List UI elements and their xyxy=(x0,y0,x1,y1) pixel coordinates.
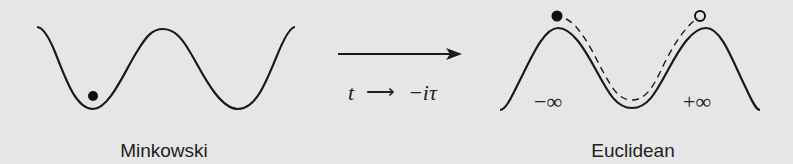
maps-to-arrow: ⟶ xyxy=(366,80,395,102)
wick-rotation-diagram: t ⟶ −iτ −∞ +∞ Minkowski Euclidean xyxy=(0,0,793,164)
minus-infinity-label: −∞ xyxy=(534,89,562,114)
euclidean-label: Euclidean xyxy=(591,140,674,161)
minkowski-label: Minkowski xyxy=(120,140,208,161)
instanton-trajectory-dashed xyxy=(566,18,698,100)
plus-infinity-label: +∞ xyxy=(683,89,711,114)
start-particle-icon xyxy=(552,11,563,22)
minkowski-potential-curve xyxy=(37,27,295,109)
particle-icon xyxy=(88,91,98,101)
time-variable: t xyxy=(348,80,355,105)
imaginary-time: −iτ xyxy=(408,80,438,105)
end-particle-icon xyxy=(695,11,705,21)
